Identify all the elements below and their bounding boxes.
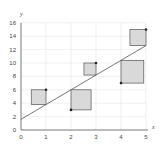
y-tick-label: 16 — [9, 20, 16, 26]
residual-square — [130, 30, 146, 46]
data-point — [45, 89, 48, 92]
y-tick-label: 10 — [9, 60, 16, 66]
data-point — [70, 109, 73, 112]
residual-square — [71, 90, 91, 110]
data-point — [95, 62, 98, 65]
y-axis-label: y — [19, 11, 23, 17]
x-tick-label: 4 — [119, 134, 123, 140]
y-tick-label: 12 — [9, 47, 16, 53]
y-tick-label: 6 — [13, 87, 17, 93]
x-axis-label: x — [151, 124, 155, 130]
x-tick-label: 3 — [94, 134, 98, 140]
data-point — [145, 28, 148, 31]
least-squares-chart: 0123450246810121416xy — [0, 0, 165, 149]
residual-square — [31, 90, 46, 105]
x-tick-label: 5 — [144, 134, 148, 140]
residual-square — [84, 63, 96, 75]
y-tick-label: 2 — [13, 114, 17, 120]
data-point — [120, 82, 123, 85]
y-tick-label: 8 — [13, 73, 17, 79]
y-tick-label: 14 — [9, 33, 16, 39]
y-tick-label: 0 — [13, 127, 17, 133]
y-tick-label: 4 — [13, 100, 17, 106]
x-tick-label: 1 — [44, 134, 48, 140]
x-tick-label: 2 — [69, 134, 73, 140]
x-tick-label: 0 — [19, 134, 23, 140]
residual-square — [121, 60, 144, 83]
